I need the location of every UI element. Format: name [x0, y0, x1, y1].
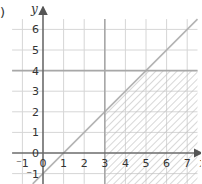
y-tick-label: 3	[32, 85, 39, 98]
x-tick-label: 7	[184, 157, 191, 170]
x-tick-label: 6	[163, 157, 170, 170]
y-tick-label: 1	[32, 126, 39, 139]
y-tick-label: 6	[32, 23, 39, 36]
y-tick-label: 4	[32, 65, 39, 78]
x-tick-label: 0	[40, 157, 47, 170]
y-tick-label: ⁻1	[26, 168, 39, 181]
x-tick-label: 3	[101, 157, 108, 170]
x-axis-label: x	[200, 156, 202, 170]
x-tick-label: 5	[143, 157, 150, 170]
y-tick-label: 5	[32, 44, 39, 57]
x-tick-label: 4	[122, 157, 129, 170]
y-tick-label: 2	[32, 106, 39, 119]
inequality-graph: xy ⁻101234567⁻10123456	[0, 0, 201, 184]
x-tick-label: 2	[81, 157, 88, 170]
y-tick-label: 0	[32, 147, 39, 160]
y-axis-label: y	[30, 2, 38, 16]
x-tick-label: 1	[60, 157, 67, 170]
